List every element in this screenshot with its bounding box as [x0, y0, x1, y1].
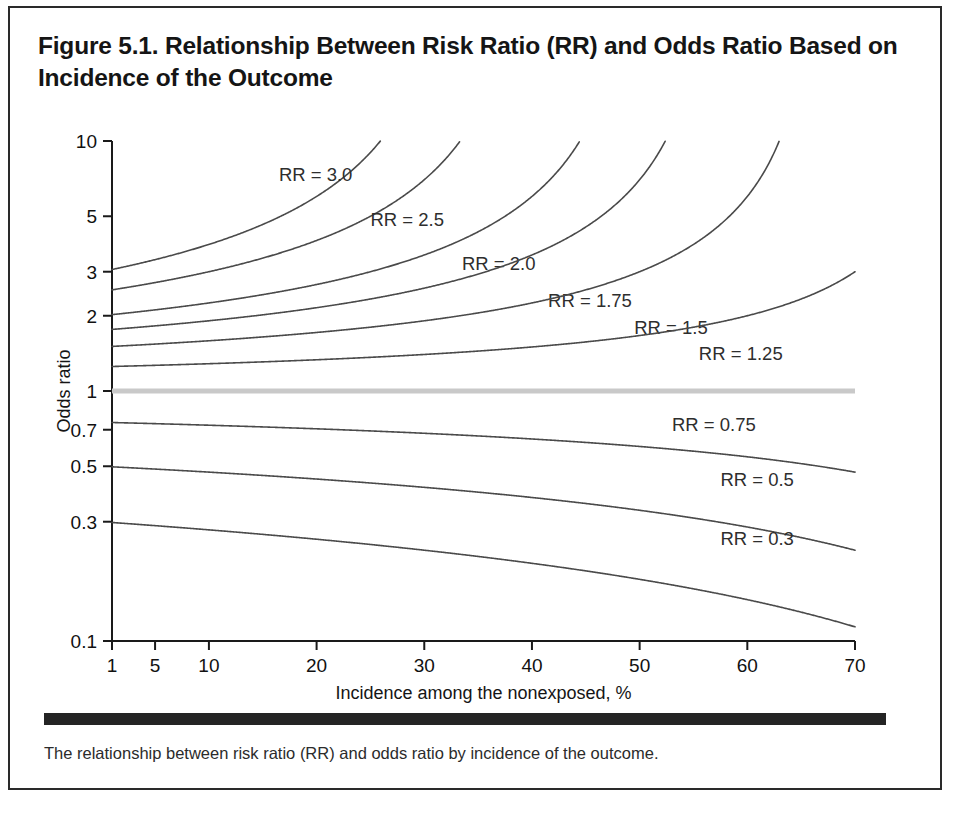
odds-ratio-chart: 1053210.70.50.30.11510203040506070Incide… — [10, 8, 944, 708]
y-axis-tick-label: 1 — [86, 381, 97, 402]
x-axis-tick-label: 50 — [629, 655, 650, 676]
y-axis-tick-label: 3 — [86, 262, 97, 283]
curve-rr-3-0 — [112, 141, 380, 269]
x-axis-tick-label: 40 — [521, 655, 542, 676]
y-axis-tick-label: 0.1 — [71, 631, 97, 652]
curve-label-rr-2-0: RR = 2.0 — [462, 253, 536, 274]
x-axis-tick-label: 10 — [198, 655, 219, 676]
curve-label-rr-2-5: RR = 2.5 — [370, 209, 444, 230]
y-axis-tick-label: 5 — [86, 206, 97, 227]
x-axis-tick-label: 20 — [306, 655, 327, 676]
x-axis-tick-label: 5 — [150, 655, 161, 676]
x-axis-tick-label: 70 — [844, 655, 865, 676]
figure-container: Figure 5.1. Relationship Between Risk Ra… — [8, 6, 942, 790]
curve-label-rr-3-0: RR = 3.0 — [279, 164, 353, 185]
caption-divider-bar — [44, 713, 886, 725]
x-axis-title: Incidence among the nonexposed, % — [335, 683, 631, 703]
x-axis-tick-label: 60 — [737, 655, 758, 676]
y-axis-tick-label: 0.5 — [71, 456, 97, 477]
curve-label-rr-1-75: RR = 1.75 — [548, 290, 632, 311]
x-axis-tick-label: 30 — [414, 655, 435, 676]
y-axis-tick-label: 0.3 — [71, 512, 97, 533]
figure-caption: The relationship between risk ratio (RR)… — [44, 743, 904, 764]
x-axis-tick-label: 1 — [107, 655, 118, 676]
chart-plot-area: 1053210.70.50.30.11510203040506070Incide… — [10, 8, 944, 708]
curve-label-rr-0-3: RR = 0.3 — [720, 528, 794, 549]
y-axis-tick-label: 10 — [76, 131, 97, 152]
curve-label-rr-0-5: RR = 0.5 — [720, 469, 794, 490]
curve-label-rr-1-25: RR = 1.25 — [699, 343, 783, 364]
y-axis-tick-label: 2 — [86, 306, 97, 327]
y-axis-title: Odds ratio — [54, 349, 74, 432]
curve-label-rr-0-75: RR = 0.75 — [672, 414, 756, 435]
y-axis-tick-label: 0.7 — [71, 420, 97, 441]
